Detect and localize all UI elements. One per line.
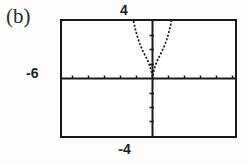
plot-area (62, 21, 235, 136)
calculator-screen (60, 19, 237, 138)
y-max-label: 4 (0, 3, 249, 17)
y-min-label: -4 (0, 142, 249, 156)
figure-container: (b) 4 -6 -4 (0, 0, 249, 165)
x-min-label: -6 (26, 66, 38, 80)
